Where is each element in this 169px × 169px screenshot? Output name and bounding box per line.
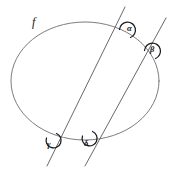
ellipse-curve-f [11,22,159,140]
angle-label-gamma: γ [47,140,51,149]
angle-label-delta: δ [84,139,88,148]
curve-label-f: f [32,16,35,28]
geometry-figure-canvas: f α β γ δ [0,0,169,169]
angle-label-alpha: α [127,24,132,33]
secant-line-2 [85,18,166,166]
angle-label-beta: β [150,45,154,54]
